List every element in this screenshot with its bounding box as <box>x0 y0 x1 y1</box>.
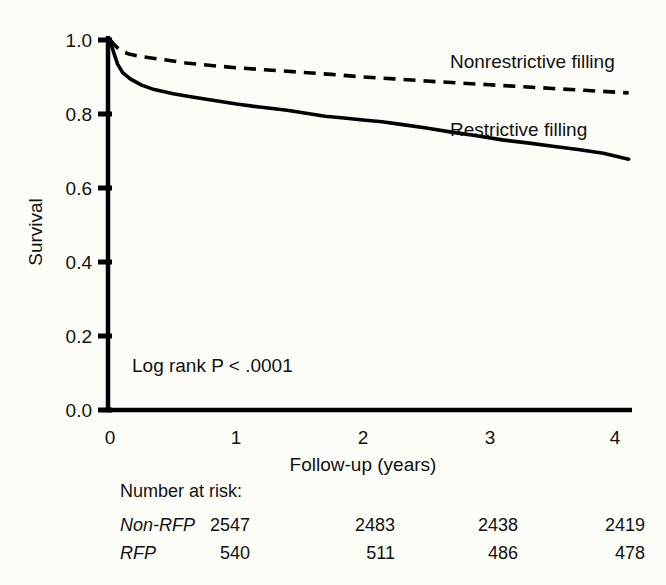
risk-row-label-rfp: RFP <box>120 543 156 563</box>
y-tick-label-0.0: 0.0 <box>66 400 92 421</box>
y-tick-label-1.0: 1.0 <box>66 30 92 51</box>
risk-value-rfp-year4: 478 <box>615 543 645 563</box>
x-tick-label-1: 1 <box>231 427 242 448</box>
y-tick-label-0.4: 0.4 <box>66 252 93 273</box>
risk-table-heading: Number at risk: <box>120 481 242 501</box>
number-at-risk-table: Number at risk: Non-RFP 2547 2483 2438 2… <box>120 481 645 563</box>
log-rank-annotation: Log rank P < .0001 <box>132 355 293 376</box>
risk-row-label-non-rfp: Non-RFP <box>120 515 195 535</box>
y-tick-label-0.8: 0.8 <box>66 104 92 125</box>
risk-value-non-rfp-year0: 2547 <box>210 515 250 535</box>
risk-value-rfp-year3: 486 <box>488 543 518 563</box>
risk-value-rfp-year0: 540 <box>220 543 250 563</box>
x-tick-label-0: 0 <box>105 427 116 448</box>
x-tick-label-3: 3 <box>485 427 496 448</box>
chart-canvas: 1.0 0.8 0.6 0.4 0.2 0.0 Survival 0 1 2 3… <box>0 0 666 585</box>
x-tick-label-4: 4 <box>610 427 621 448</box>
y-axis-tick-labels: 1.0 0.8 0.6 0.4 0.2 0.0 <box>66 30 93 421</box>
risk-value-non-rfp-year4: 2419 <box>605 515 645 535</box>
risk-table-row-rfp: RFP 540 511 486 478 <box>120 543 645 563</box>
kaplan-meier-survival-figure: 1.0 0.8 0.6 0.4 0.2 0.0 Survival 0 1 2 3… <box>0 0 666 585</box>
series-label-nonrestrictive-filling: Nonrestrictive filling <box>450 51 615 72</box>
risk-value-non-rfp-year2: 2483 <box>355 515 395 535</box>
risk-table-row-non-rfp: Non-RFP 2547 2483 2438 2419 <box>120 515 645 535</box>
y-tick-label-0.6: 0.6 <box>66 178 92 199</box>
series-label-restrictive-filling: Restrictive filling <box>450 119 587 140</box>
x-axis-tick-labels: 0 1 2 3 4 <box>105 427 621 448</box>
x-axis-title: Follow-up (years) <box>290 454 437 475</box>
risk-value-non-rfp-year3: 2438 <box>478 515 518 535</box>
x-tick-label-2: 2 <box>358 427 369 448</box>
y-tick-label-0.2: 0.2 <box>66 326 92 347</box>
y-axis-title: Survival <box>25 198 46 266</box>
risk-value-rfp-year2: 511 <box>366 543 395 563</box>
